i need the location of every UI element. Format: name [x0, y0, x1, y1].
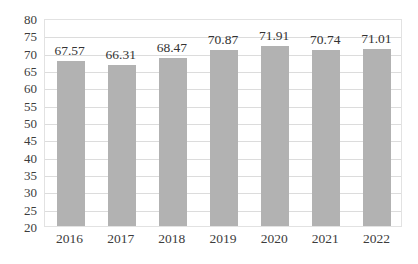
- y-axis-tick-label: 55: [24, 99, 37, 112]
- x-axis-tick-label: 2021: [312, 232, 339, 246]
- y-axis-tick-label: 25: [24, 203, 37, 216]
- x-axis-tick-label: 2022: [363, 232, 390, 246]
- bar: [312, 50, 340, 226]
- plot-area: [44, 19, 402, 227]
- x-axis-tick-label: 2016: [56, 232, 83, 246]
- bar-chart: 80757065605550454035302520 67.5766.3168.…: [0, 0, 418, 264]
- x-axis-tick-label: 2019: [210, 232, 237, 246]
- y-axis-tick-label: 80: [24, 13, 37, 26]
- y-axis-tick-label: 45: [24, 134, 37, 147]
- y-axis-tick-label: 35: [24, 169, 37, 182]
- y-axis-tick-label: 65: [24, 65, 37, 78]
- y-axis-tick-label: 20: [24, 221, 37, 234]
- y-axis-tick-label: 60: [24, 82, 37, 95]
- x-axis-tick-label: 2017: [107, 232, 134, 246]
- y-axis-tick-label: 30: [24, 186, 37, 199]
- bar: [57, 61, 85, 226]
- bar: [363, 49, 391, 226]
- y-axis-tick-label: 50: [24, 117, 37, 130]
- y-axis-tick-label: 75: [24, 30, 37, 43]
- bar: [108, 65, 136, 226]
- bars-group: [45, 20, 401, 226]
- y-axis: 80757065605550454035302520: [0, 0, 42, 264]
- bar: [261, 46, 289, 226]
- x-axis-tick-label: 2020: [261, 232, 288, 246]
- x-axis-tick-label: 2018: [158, 232, 185, 246]
- bar: [210, 50, 238, 226]
- y-axis-tick-label: 40: [24, 151, 37, 164]
- bar: [159, 58, 187, 226]
- x-axis: 2016201720182019202020212022: [44, 232, 402, 256]
- y-axis-tick-label: 70: [24, 47, 37, 60]
